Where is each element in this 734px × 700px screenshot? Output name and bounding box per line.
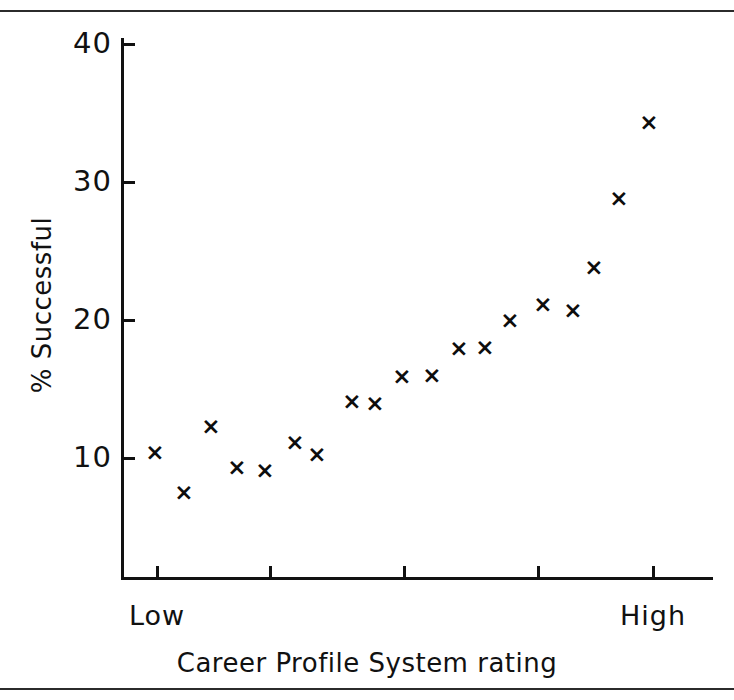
data-point-marker: ×: [584, 256, 604, 278]
data-point-marker: ×: [422, 364, 442, 386]
data-point-marker: ×: [639, 111, 659, 133]
data-point-marker: ×: [392, 365, 412, 387]
data-point-marker: ×: [533, 293, 553, 315]
data-point-marker: ×: [227, 456, 247, 478]
data-point-marker: ×: [342, 390, 362, 412]
data-point-marker: ×: [174, 481, 194, 503]
data-point-marker: ×: [563, 299, 583, 321]
data-point-marker: ×: [609, 187, 629, 209]
data-point-marker: ×: [201, 415, 221, 437]
data-point-marker: ×: [500, 309, 520, 331]
data-point-marker: ×: [475, 336, 495, 358]
data-point-marker: ×: [285, 431, 305, 453]
data-point-marker: ×: [365, 392, 385, 414]
plot-area: ×××××××××××××××××××: [0, 0, 734, 700]
data-point-marker: ×: [449, 337, 469, 359]
data-point-marker: ×: [307, 443, 327, 465]
data-point-marker: ×: [255, 459, 275, 481]
scatter-plot-figure: 40302010 LowHigh % Successful Career Pro…: [0, 0, 734, 700]
data-point-marker: ×: [145, 441, 165, 463]
